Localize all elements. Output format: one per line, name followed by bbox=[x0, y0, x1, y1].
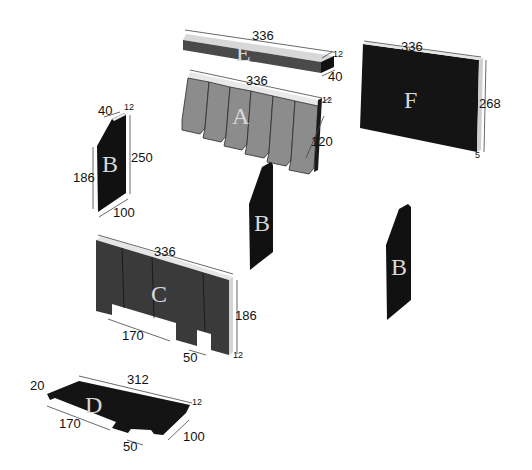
dim-a-height: 120 bbox=[311, 134, 333, 149]
dim-b-top: 40 bbox=[98, 103, 112, 118]
part-f: 336 F 268 5 bbox=[360, 39, 501, 160]
part-label-b-center: B bbox=[254, 210, 270, 236]
part-label-a: A bbox=[232, 103, 250, 129]
dim-d-depth: 100 bbox=[183, 429, 205, 444]
dim-a-thickness: 12 bbox=[322, 95, 332, 105]
dim-b-front-height: 186 bbox=[73, 170, 95, 185]
part-label-b-right: B bbox=[391, 254, 407, 280]
part-d: 312 D 12 100 20 170 50 bbox=[30, 372, 205, 454]
part-a: 336 A 12 120 bbox=[182, 70, 333, 174]
dim-c-cutout-wide: 170 bbox=[122, 328, 144, 343]
dim-d-cutout-wide: 170 bbox=[59, 416, 81, 431]
part-b-center: B bbox=[249, 162, 273, 270]
part-b-left: 40 12 186 250 100 B bbox=[73, 102, 153, 220]
exploded-diagram: 336 E 12 40 336 A 12 120 336 F bbox=[0, 0, 532, 470]
dim-b-depth: 100 bbox=[113, 205, 135, 220]
part-label-c: C bbox=[151, 281, 167, 307]
dim-c-height: 186 bbox=[235, 308, 257, 323]
dim-e-length: 336 bbox=[252, 28, 274, 43]
dim-d-offset: 20 bbox=[30, 378, 44, 393]
part-c: 336 C 186 12 170 50 bbox=[96, 235, 257, 365]
dim-e-width: 40 bbox=[328, 69, 342, 84]
part-label-f: F bbox=[404, 87, 417, 113]
dim-e-thickness: 12 bbox=[333, 49, 343, 59]
dim-d-cutout-narrow: 50 bbox=[123, 439, 137, 454]
dim-c-thickness: 12 bbox=[233, 350, 243, 360]
dim-d-length: 312 bbox=[127, 372, 149, 387]
dim-c-cutout-narrow: 50 bbox=[183, 350, 197, 365]
dim-f-height: 268 bbox=[479, 96, 501, 111]
dim-b-thickness: 12 bbox=[124, 102, 134, 112]
dim-d-thickness: 12 bbox=[192, 397, 202, 407]
part-label-e: E bbox=[236, 40, 251, 66]
dim-f-thickness: 5 bbox=[475, 150, 480, 160]
dim-f-length: 336 bbox=[401, 39, 423, 54]
part-b-right: B bbox=[386, 204, 411, 320]
part-label-d: D bbox=[85, 392, 102, 418]
dim-b-back-height: 250 bbox=[131, 150, 153, 165]
part-label-b-left: B bbox=[102, 151, 118, 177]
dim-a-length: 336 bbox=[246, 73, 268, 88]
dim-c-length: 336 bbox=[154, 244, 176, 259]
